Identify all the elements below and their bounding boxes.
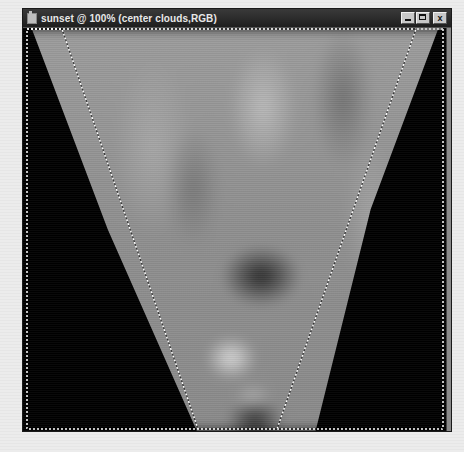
selection-right-edge-shadow — [277, 29, 443, 429]
selection-left-edge-shadow — [27, 29, 198, 429]
title-bar[interactable]: sunset @ 100% (center clouds,RGB) x — [23, 9, 451, 28]
selection-marquee[interactable] — [23, 28, 447, 431]
window-controls: x — [401, 12, 447, 24]
close-icon: x — [437, 13, 442, 23]
desktop-background: sunset @ 100% (center clouds,RGB) x — [0, 0, 464, 452]
close-button[interactable]: x — [433, 12, 447, 24]
selection-left-edge — [27, 29, 198, 429]
photoshop-document-icon[interactable] — [27, 13, 37, 24]
maximize-button[interactable] — [416, 12, 430, 24]
minimize-button[interactable] — [401, 12, 415, 24]
image-canvas[interactable] — [23, 28, 447, 431]
canvas-border-marquee — [27, 29, 443, 429]
canvas-border-marquee-shadow — [27, 29, 443, 429]
selection-right-edge — [277, 29, 443, 429]
document-window[interactable]: sunset @ 100% (center clouds,RGB) x — [22, 8, 452, 432]
window-title: sunset @ 100% (center clouds,RGB) — [41, 13, 217, 24]
window-right-edge — [446, 28, 451, 431]
